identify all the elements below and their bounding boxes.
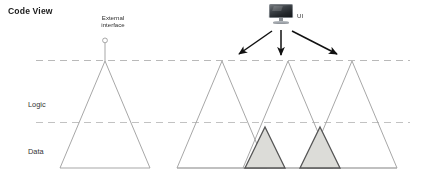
external-interface-label: External interface bbox=[93, 14, 133, 29]
triangle-shared-data-2[interactable] bbox=[300, 127, 340, 168]
page-title: Code View bbox=[8, 7, 53, 17]
layer-label-logic: Logic bbox=[28, 101, 46, 109]
triangle-left-component[interactable] bbox=[60, 61, 150, 168]
component-group-right bbox=[177, 61, 397, 168]
monitor-base bbox=[273, 21, 289, 24]
monitor-screen bbox=[269, 4, 293, 18]
circle-port-icon[interactable] bbox=[103, 38, 108, 43]
triangle-shared-data-1[interactable] bbox=[245, 127, 285, 168]
arrow-to-left-component bbox=[239, 31, 272, 54]
layer-label-data: Data bbox=[28, 148, 44, 156]
diagram-vector-layer bbox=[0, 0, 425, 180]
monitor-icon[interactable] bbox=[268, 4, 294, 25]
component-left[interactable] bbox=[60, 38, 150, 168]
ui-arrows bbox=[239, 30, 337, 55]
arrow-to-right-component bbox=[292, 31, 337, 54]
ui-label: UI bbox=[297, 13, 303, 20]
diagram-canvas: Code View Logic Data External interface … bbox=[0, 0, 425, 180]
monitor-glare bbox=[272, 6, 283, 11]
